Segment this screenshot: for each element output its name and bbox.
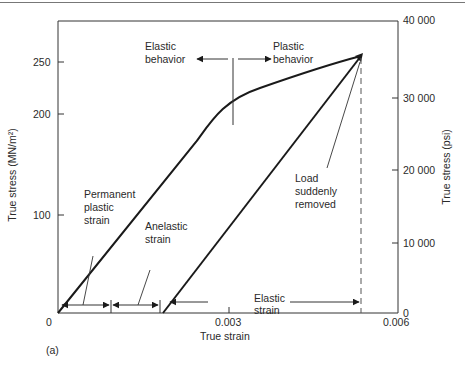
y-left-tick-250: 250 <box>33 56 51 68</box>
left-axis-ticks <box>58 62 64 215</box>
load-removed-label-3: removed <box>295 198 336 210</box>
y-right-tick-20000: 20 000 <box>403 164 435 176</box>
elastic-behavior-label-1: Elastic <box>145 40 176 52</box>
load-removed-label-2: suddenly <box>295 185 337 197</box>
plot-frame <box>58 21 398 313</box>
perm-strain-label-2: plastic <box>84 201 114 213</box>
y-right-tick-30000: 30 000 <box>403 92 435 104</box>
y-left-axis-title: True stress (MN/m²) <box>6 128 18 222</box>
elastic-behavior-label-2: behavior <box>145 53 185 65</box>
load-removed-label-1: Load <box>295 172 318 184</box>
elastic-strain-label-2: strain <box>254 304 280 316</box>
y-right-tick-0: 0 <box>403 307 409 319</box>
y-right-tick-40000: 40 000 <box>403 14 435 26</box>
anelastic-strain-label-2: strain <box>145 233 171 245</box>
panel-label: (a) <box>46 344 59 356</box>
right-axis-ticks <box>392 98 398 243</box>
x-tick-0: 0 <box>46 316 52 328</box>
leader-anelastic <box>138 270 150 305</box>
y-right-tick-10000: 10 000 <box>403 237 435 249</box>
y-left-tick-200: 200 <box>33 108 51 120</box>
y-right-axis-title: True stress (psi) <box>440 129 452 204</box>
y-left-tick-100: 100 <box>33 209 51 221</box>
plastic-behavior-label-2: behavior <box>273 53 313 65</box>
x-axis-title: True strain <box>200 330 250 342</box>
plastic-behavior-label-1: Plastic <box>273 40 304 52</box>
anelastic-strain-label-1: Anelastic <box>145 220 188 232</box>
stress-strain-chart <box>0 0 467 368</box>
x-tick-0003: 0.003 <box>215 316 241 328</box>
elastic-strain-label-1: Elastic <box>254 292 285 304</box>
perm-strain-label-3: strain <box>84 214 110 226</box>
perm-strain-label-1: Permanent <box>84 188 135 200</box>
